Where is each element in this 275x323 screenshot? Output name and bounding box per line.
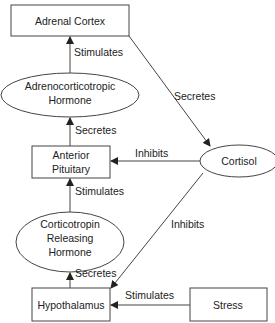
hypothalamus-label: Hypothalamus [37, 299, 104, 311]
anterior-label-2: Pituitary [52, 163, 91, 175]
anterior-label-1: Anterior [53, 149, 90, 161]
hpa-axis-diagram: Adrenal Cortex Adrenocorticotropic Hormo… [0, 0, 275, 323]
edge-label-secretes-2: Secretes [75, 124, 116, 136]
acth-label-1: Adrenocorticotropic [25, 80, 115, 92]
crh-label-1: Corticotropin [40, 218, 100, 230]
edge-label-stimulates-2: Stimulates [75, 185, 124, 197]
edge-label-secretes-3: Secretes [75, 267, 116, 279]
crh-label-2: Releasing [47, 232, 94, 244]
stress-label: Stress [213, 299, 243, 311]
cortisol-label: Cortisol [221, 155, 257, 167]
edge-label-stimulates-1: Stimulates [74, 46, 123, 58]
edge-label-inhibits-1: Inhibits [135, 147, 168, 159]
acth-label-2: Hormone [48, 94, 91, 106]
edge-cortisol-to-hypothalamus [111, 173, 203, 288]
adrenal-cortex-label: Adrenal Cortex [35, 15, 106, 27]
crh-label-3: Hormone [48, 246, 91, 258]
edge-label-inhibits-2: Inhibits [171, 218, 204, 230]
edge-label-secretes-1: Secretes [174, 90, 215, 102]
edge-label-stimulates-3: Stimulates [125, 289, 174, 301]
